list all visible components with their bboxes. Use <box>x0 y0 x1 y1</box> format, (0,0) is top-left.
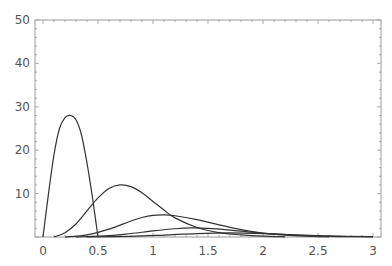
x-tick-label: 2.5 <box>308 244 327 258</box>
x-tick-label: 1.5 <box>198 244 217 258</box>
y-axis-tick-labels: 1020304050 <box>15 13 30 201</box>
curve-1 <box>43 115 98 237</box>
line-chart: 00.511.522.53 1020304050 <box>0 0 392 266</box>
x-tick-label: 2 <box>259 244 267 258</box>
y-tick-label: 40 <box>15 56 30 70</box>
y-tick-label: 30 <box>15 100 30 114</box>
curve-series <box>43 115 373 237</box>
x-tick-label: 0 <box>39 244 47 258</box>
x-tick-label: 3 <box>369 244 377 258</box>
y-tick-label: 20 <box>15 143 30 157</box>
plot-frame <box>35 20 381 237</box>
x-tick-label: 0.5 <box>88 244 107 258</box>
x-axis-tick-labels: 00.511.522.53 <box>39 244 377 258</box>
axis-ticks <box>35 20 381 237</box>
y-tick-label: 50 <box>15 13 30 27</box>
y-tick-label: 10 <box>15 187 30 201</box>
x-tick-label: 1 <box>149 244 157 258</box>
